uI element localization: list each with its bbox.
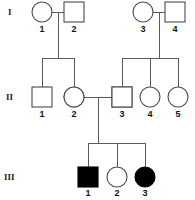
individual-ii-3[interactable] — [112, 87, 132, 107]
individual-number-ii-1: 1 — [39, 109, 44, 119]
individual-number-i-2: 2 — [71, 24, 76, 34]
pedigree-chart: 123412345123IIIIII — [0, 0, 195, 200]
individual-number-iii-1: 1 — [85, 188, 90, 198]
generation-label-iii: III — [4, 172, 15, 182]
individual-number-i-1: 1 — [39, 24, 44, 34]
male-square-symbol — [165, 2, 185, 22]
individual-i-4[interactable] — [165, 2, 185, 22]
individual-ii-1[interactable] — [32, 87, 52, 107]
female-circle-symbol — [140, 87, 160, 107]
individual-iii-1[interactable] — [78, 167, 98, 187]
individual-number-ii-5: 5 — [175, 109, 180, 119]
individual-iii-2[interactable] — [107, 167, 127, 187]
individual-number-iii-3: 3 — [142, 188, 147, 198]
female-circle-symbol — [168, 87, 188, 107]
individual-ii-4[interactable] — [140, 87, 160, 107]
individual-number-i-4: 4 — [172, 24, 177, 34]
symbol-outline — [112, 87, 132, 107]
individual-number-ii-4: 4 — [147, 109, 152, 119]
male-square-symbol — [64, 2, 84, 22]
individual-i-3[interactable] — [133, 2, 153, 22]
female-circle-symbol — [133, 2, 153, 22]
symbol-outline — [64, 87, 84, 107]
individual-i-1[interactable] — [32, 2, 52, 22]
individual-iii-3[interactable] — [135, 167, 155, 187]
female-circle-symbol — [32, 2, 52, 22]
pedigree-canvas: 123412345123IIIIII — [0, 0, 195, 200]
female-circle-symbol — [135, 167, 155, 187]
generation-label-i: I — [8, 7, 12, 17]
individual-i-2[interactable] — [64, 2, 84, 22]
individual-number-i-3: 3 — [140, 24, 145, 34]
generation-label-ii: II — [6, 92, 14, 102]
individual-ii-2[interactable] — [64, 87, 84, 107]
connectors-layer — [42, 12, 178, 167]
individual-ii-5[interactable] — [168, 87, 188, 107]
symbols-layer — [32, 2, 188, 187]
male-square-symbol — [78, 167, 98, 187]
male-square-symbol — [32, 87, 52, 107]
individual-number-ii-2: 2 — [71, 109, 76, 119]
individual-number-ii-3: 3 — [119, 109, 124, 119]
female-circle-symbol — [107, 167, 127, 187]
individual-number-iii-2: 2 — [114, 188, 119, 198]
